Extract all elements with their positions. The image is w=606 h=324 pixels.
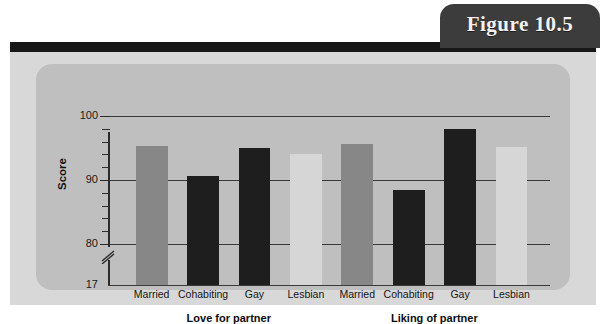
bar [444, 129, 476, 285]
bar [239, 148, 271, 285]
figure-tab-label: Figure 10.5 [467, 12, 574, 41]
bar [290, 154, 322, 285]
chart-panel: Score 100908017 MarriedCohabitingGayLesb… [36, 64, 570, 290]
bars-area [36, 64, 570, 290]
group-label: Love for partner [112, 312, 346, 324]
bar [341, 144, 373, 285]
bar-chart: Score 100908017 MarriedCohabitingGayLesb… [36, 64, 570, 290]
x-axis-label: Lesbian [473, 288, 550, 300]
figure-tab: Figure 10.5 [440, 4, 600, 48]
bar [496, 147, 528, 285]
bar [136, 146, 168, 285]
bar [393, 190, 425, 285]
figure-card: Score 100908017 MarriedCohabitingGayLesb… [10, 42, 596, 305]
group-label: Liking of partner [317, 312, 551, 324]
bar [187, 176, 219, 285]
